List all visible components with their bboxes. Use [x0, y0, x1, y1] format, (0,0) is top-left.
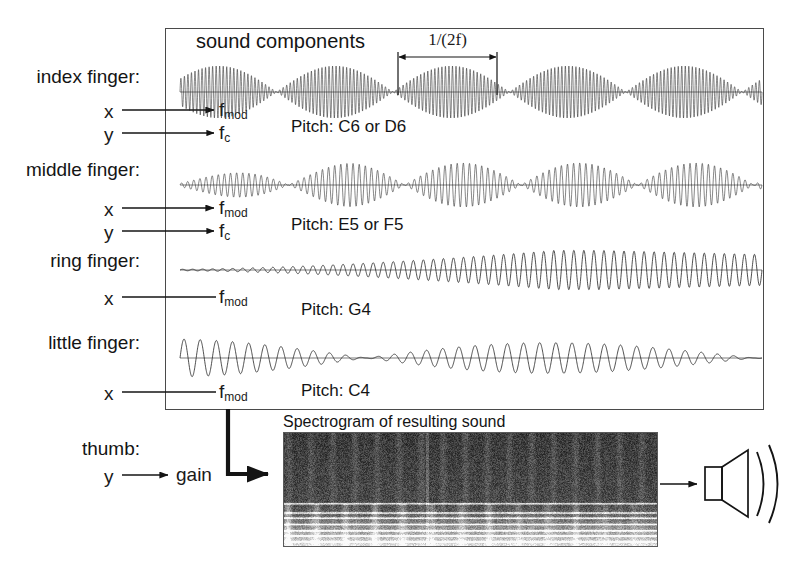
figure-root: sound components index finger: middle fi…: [0, 0, 785, 564]
spectrogram-image: [283, 432, 658, 547]
